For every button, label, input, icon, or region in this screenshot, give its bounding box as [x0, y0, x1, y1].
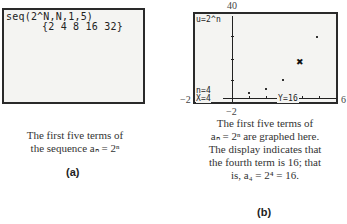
trace-cursor: ✖: [296, 59, 303, 66]
x-tick: [302, 96, 303, 99]
caption-b-line2: aₙ = 2ⁿ are graphed here.: [195, 130, 335, 143]
y-max-label: 40: [227, 0, 237, 11]
x-tick: [249, 96, 250, 99]
x-tick: [319, 96, 320, 99]
caption-b-line1: The first five terms of: [195, 117, 335, 130]
data-point-1: [248, 92, 250, 94]
x-min-label: −2: [180, 94, 191, 105]
caption-b-line4: the fourth term is 16; that: [195, 156, 335, 169]
caption-b-line5: is, a₄ = 2⁴ = 16.: [195, 169, 335, 182]
y-tick: [231, 59, 234, 60]
caption-a-line1: The first five terms of: [10, 129, 140, 142]
function-label: u=2^n: [196, 14, 221, 25]
y-tick: [231, 80, 234, 81]
caption-a: The first five terms of the sequence aₙ …: [10, 129, 140, 155]
panel-label-a: (a): [66, 166, 79, 178]
x-tick: [266, 96, 267, 99]
caption-a-line2: the sequence aₙ = 2ⁿ: [10, 142, 140, 155]
caption-b-line3: The display indicates that: [195, 143, 335, 156]
data-point-3: [282, 79, 284, 81]
y-readout: Y=16: [277, 95, 299, 103]
calculator-home-screen: seq(2^N,N,1,5) {2 4 8 16 32}: [2, 8, 145, 104]
caption-b: The first five terms of aₙ = 2ⁿ are grap…: [195, 117, 335, 182]
x-readout: X=4: [196, 95, 211, 103]
data-point-5: [316, 36, 318, 38]
seq-result: {2 4 8 16 32}: [42, 21, 123, 32]
calculator-graph-screen: u=2^n ✖ n=4 X=4 Y=16: [193, 12, 338, 104]
x-max-label: 6: [341, 94, 346, 105]
y-tick: [231, 36, 234, 37]
data-point-2: [265, 88, 267, 90]
y-min-label: −2: [226, 106, 237, 117]
panel-label-b: (b): [257, 206, 271, 218]
